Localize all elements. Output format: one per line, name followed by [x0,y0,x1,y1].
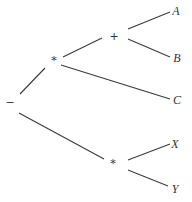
node-mul2: * [110,157,116,170]
node-B: B [173,51,181,65]
edge-root-to-mul2 [19,113,104,159]
tree-nodes: −*+*ABCXY [5,4,182,196]
edge-root-to-mul1 [20,68,45,94]
edge-mul1-to-plus [63,38,102,57]
node-root: − [5,96,14,109]
node-A: A [171,4,180,18]
edge-mul2-to-Y [128,170,168,186]
edge-mul1-to-C [61,65,170,99]
node-mul1: * [51,54,57,67]
edge-plus-to-A [128,12,170,29]
node-X: X [170,137,179,151]
node-Y: Y [172,182,180,196]
node-C: C [173,93,182,107]
edge-mul2-to-X [128,144,170,160]
expression-tree-diagram: −*+*ABCXY [0,0,192,202]
edge-plus-to-B [128,39,170,57]
node-plus: + [109,30,118,43]
tree-edges [19,12,170,186]
